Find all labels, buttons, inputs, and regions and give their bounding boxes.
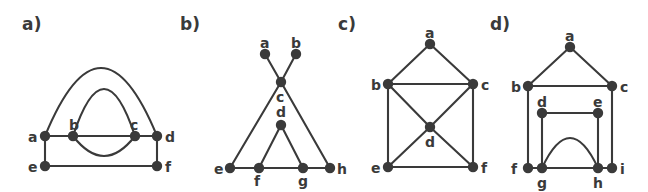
node-e [383, 162, 393, 172]
edge-a-b [528, 47, 570, 86]
edge-d-e [388, 127, 430, 167]
edge-b-c [73, 89, 135, 136]
node-g [537, 163, 547, 173]
node-label-h: h [593, 176, 603, 190]
node-f [468, 162, 478, 172]
node-label-i: i [620, 162, 625, 176]
edge-d-f [259, 125, 281, 168]
node-label-d: d [276, 105, 286, 119]
node-g [298, 163, 308, 173]
edge-a-b [388, 44, 430, 84]
edge-a-d [45, 68, 157, 136]
node-label-b: b [69, 118, 79, 132]
node-label-c: c [481, 78, 489, 92]
node-label-c: c [276, 90, 284, 104]
node-label-e: e [214, 162, 224, 176]
node-e [225, 163, 235, 173]
node-label-e: e [371, 161, 381, 175]
graph-panel-c [383, 39, 478, 172]
edge-d-f [430, 127, 473, 167]
node-f [254, 163, 264, 173]
node-label-a: a [260, 36, 269, 50]
node-a [40, 131, 50, 141]
node-e [40, 161, 50, 171]
node-label-g: g [298, 174, 308, 188]
node-d [425, 122, 435, 132]
edge-c-h [281, 82, 330, 168]
edge-a-c [570, 47, 612, 86]
node-c [468, 79, 478, 89]
panel-caption-b: b) [180, 14, 200, 34]
node-label-f: f [254, 174, 260, 188]
node-label-a: a [425, 26, 434, 40]
node-label-h: h [337, 162, 347, 176]
edge-b-c [73, 136, 135, 156]
panel-caption-d: d) [490, 14, 510, 34]
edge-g-h [542, 138, 598, 168]
node-label-d: d [165, 130, 175, 144]
node-label-b: b [511, 80, 521, 94]
node-label-a: a [565, 29, 574, 43]
node-label-e: e [28, 160, 38, 174]
node-b [383, 79, 393, 89]
node-label-f: f [511, 162, 517, 176]
node-c [276, 77, 286, 87]
node-label-d: d [537, 95, 547, 109]
node-label-c: c [620, 80, 628, 94]
edge-d-g [281, 125, 303, 168]
node-label-f: f [165, 160, 171, 174]
node-label-b: b [291, 36, 301, 50]
graph-drawing-canvas [0, 0, 648, 192]
node-i [607, 163, 617, 173]
edge-c-d [430, 84, 473, 127]
node-d [152, 131, 162, 141]
node-label-f: f [481, 161, 487, 175]
edge-b-d [388, 84, 430, 127]
node-b [523, 81, 533, 91]
edge-c-e [230, 82, 281, 168]
node-f [523, 163, 533, 173]
graph-panel-a [40, 68, 162, 171]
node-label-d: d [425, 135, 435, 149]
node-h [593, 163, 603, 173]
node-label-a: a [28, 130, 37, 144]
node-c [607, 81, 617, 91]
panel-caption-c: c) [338, 14, 356, 34]
panel-caption-a: a) [22, 14, 42, 34]
node-d [276, 120, 286, 130]
node-label-c: c [130, 118, 138, 132]
graph-figure: a)abcdefb)abcdefghc)abcdefd)abcdefghi [0, 0, 648, 192]
node-label-b: b [371, 78, 381, 92]
node-label-g: g [537, 176, 547, 190]
edge-a-c [430, 44, 473, 84]
node-h [325, 163, 335, 173]
node-f [152, 161, 162, 171]
node-label-e: e [593, 95, 603, 109]
